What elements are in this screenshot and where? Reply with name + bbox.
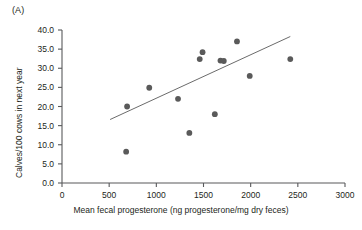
x-axis-tick-label: 1500 [194, 190, 213, 200]
x-axis-ticks [62, 183, 345, 187]
data-point [146, 85, 152, 91]
x-axis-tick-label: 2000 [241, 190, 260, 200]
y-axis-tick-label: 35.0 [18, 44, 54, 54]
data-point [197, 56, 203, 62]
x-axis-tick-label: 0 [60, 190, 65, 200]
data-point [186, 130, 192, 136]
x-axis-tick-label: 3000 [336, 190, 355, 200]
x-axis-tick-label: 500 [102, 190, 116, 200]
y-axis-tick-label: 40.0 [18, 25, 54, 35]
data-point [221, 58, 227, 64]
data-point [123, 149, 129, 155]
x-axis-title: Mean fecal progesterone (ng progesterone… [0, 205, 362, 215]
x-axis-tick-label: 1000 [147, 190, 166, 200]
scatter-plot-canvas [0, 0, 362, 230]
data-point [124, 104, 130, 110]
data-point-markers [123, 39, 293, 155]
data-point [212, 111, 218, 117]
y-axis-tick-label: 0.0 [18, 178, 54, 188]
figure-panel-a: (A) 0.05.010.015.020.025.030.035.040.0 0… [0, 0, 362, 230]
y-axis-ticks [58, 30, 62, 183]
x-axis-tick-label: 2500 [288, 190, 307, 200]
data-point [234, 39, 240, 45]
data-point [175, 96, 181, 102]
data-point [287, 56, 293, 62]
y-axis-title: Calves/100 cows in next year [14, 67, 24, 178]
regression-line [110, 37, 290, 120]
data-point [200, 49, 206, 55]
data-point [247, 73, 253, 79]
trend-line [110, 37, 290, 120]
